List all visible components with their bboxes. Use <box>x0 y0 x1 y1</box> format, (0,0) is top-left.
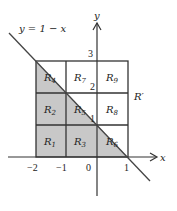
y-tick-3: 3 <box>88 48 93 59</box>
x-tick-neg1: −1 <box>56 162 67 173</box>
x-tick-0: 0 <box>86 162 91 173</box>
region-r8: R8 <box>105 104 119 117</box>
region-diagram: y = 1 − x y x R′ −2 −1 0 1 1 2 3 R4 R7 R… <box>0 0 177 211</box>
region-r7: R7 <box>73 72 87 85</box>
line-equation-label: y = 1 − x <box>18 23 66 34</box>
region-r-prime-label: R′ <box>133 91 145 102</box>
x-axis-label: x <box>160 152 166 163</box>
y-axis-label: y <box>93 10 100 21</box>
region-r9: R9 <box>105 72 119 85</box>
y-tick-2: 2 <box>90 81 95 92</box>
x-tick-1: 1 <box>124 162 129 173</box>
x-tick-neg2: −2 <box>27 162 38 173</box>
y-axis <box>93 23 101 196</box>
y-tick-1: 1 <box>90 113 95 124</box>
